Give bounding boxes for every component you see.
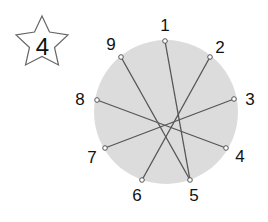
point-label-3: 3 (245, 90, 254, 109)
point-dot-2 (208, 55, 213, 60)
point-label-8: 8 (75, 90, 84, 109)
point-label-1: 1 (160, 16, 169, 35)
point-dot-5 (188, 178, 193, 183)
point-dot-1 (163, 39, 168, 44)
star-badge: 4 (16, 16, 68, 65)
diagram-canvas: 4 123456789 (0, 0, 268, 222)
point-label-2: 2 (215, 38, 224, 57)
point-label-4: 4 (235, 147, 244, 166)
star-number: 4 (36, 33, 49, 60)
point-dot-7 (103, 146, 108, 151)
point-label-9: 9 (106, 35, 115, 54)
point-label-7: 7 (87, 148, 96, 167)
point-dot-6 (140, 178, 145, 183)
point-label-5: 5 (189, 186, 198, 205)
point-dot-4 (224, 146, 229, 151)
point-dot-3 (232, 97, 237, 102)
dot-circle (94, 40, 238, 184)
point-dot-9 (119, 55, 124, 60)
point-label-6: 6 (132, 186, 141, 205)
point-dot-8 (95, 98, 100, 103)
